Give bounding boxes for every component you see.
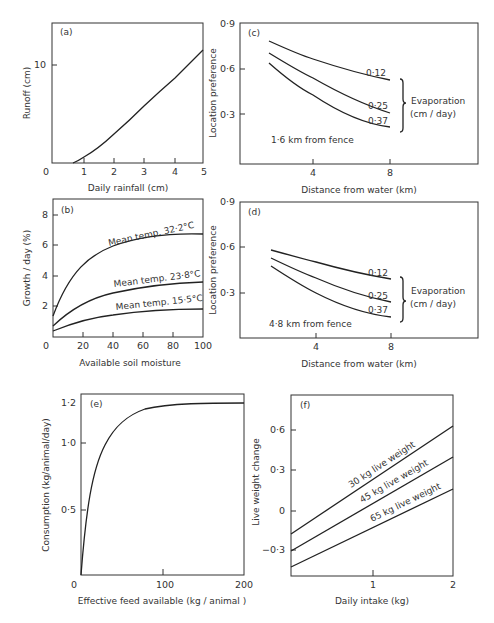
panel-f: (f) 0·6 0·3 0 −0·3 1 2 Daily intake (kg)… xyxy=(251,395,456,606)
panel-a-label: (a) xyxy=(60,27,73,37)
panel-b: (b) 8 6 4 2 0 20 40 60 80 100 Available … xyxy=(22,199,212,368)
x-axis-label: Distance from water (km) xyxy=(301,359,417,369)
series-label: 0·25 xyxy=(368,291,388,301)
brace-icon xyxy=(400,277,406,322)
x-tick-label: 100 xyxy=(194,340,212,351)
y-tick-label: 8 xyxy=(42,209,48,220)
y-tick-label: 2 xyxy=(42,300,48,311)
x-tick-label: 100 xyxy=(156,579,174,590)
x-tick-label: 200 xyxy=(235,579,253,590)
y-tick-label: 1·0 xyxy=(61,437,76,448)
x-tick-label: 0 xyxy=(71,579,77,590)
series-label: 0·12 xyxy=(368,268,388,278)
panel-c: (c) 0·9 0·6 0·3 4 8 Distance from water … xyxy=(208,18,478,195)
series-label: 0·12 xyxy=(366,68,386,78)
x-axis-label: Available soil moisture xyxy=(79,358,181,368)
legend-title-line1: Evaporation xyxy=(411,286,465,296)
x-tick-label: 3 xyxy=(141,166,147,177)
x-tick-label: 4 xyxy=(310,167,316,178)
series-label: 0·37 xyxy=(368,305,388,315)
series-label: 0·37 xyxy=(368,116,388,126)
y-tick-label: −0·3 xyxy=(262,544,285,555)
y-tick-label: 0·6 xyxy=(220,63,235,74)
y-tick-label: 10 xyxy=(34,59,46,70)
y-tick-label: 0·5 xyxy=(61,504,76,515)
y-axis-label: Location preference xyxy=(208,225,218,315)
figure: (a) 10 0 1 2 3 4 5 Daily rainfall (cm) R… xyxy=(0,0,494,623)
x-axis-label: Daily intake (kg) xyxy=(335,596,409,606)
x-tick-label: 60 xyxy=(137,340,149,351)
legend-title-line2: (cm / day) xyxy=(410,109,456,119)
x-tick-label: 4 xyxy=(172,166,178,177)
panel-a: (a) 10 0 1 2 3 4 5 Daily rainfall (cm) R… xyxy=(22,23,207,193)
series-label: 0·25 xyxy=(368,101,388,111)
y-tick-label: 6 xyxy=(42,239,48,250)
y-axis-label: Consumption (kg/animal/day) xyxy=(41,418,51,552)
y-tick-label: 4 xyxy=(42,270,48,281)
consumption-curve xyxy=(81,403,244,575)
x-axis-label: Distance from water (km) xyxy=(301,185,417,195)
panel-e-label: (e) xyxy=(90,399,103,409)
x-tick-label: 8 xyxy=(388,341,394,352)
x-tick-label: 0 xyxy=(43,166,49,177)
y-tick-label: 0 xyxy=(279,505,285,516)
x-tick-label: 20 xyxy=(77,340,89,351)
legend-title-line2: (cm / day) xyxy=(410,299,456,309)
panel-d: (d) 0·9 0·6 0·3 4 8 Distance from water … xyxy=(208,196,478,369)
y-tick-label: 1·2 xyxy=(61,397,76,408)
x-tick-label: 1 xyxy=(81,166,87,177)
y-axis-label: Runoff (cm) xyxy=(22,67,32,120)
y-tick-label: 0·6 xyxy=(270,424,285,435)
y-tick-label: 0·6 xyxy=(220,241,235,252)
legend-title-line1: Evaporation xyxy=(411,96,465,106)
x-tick-label: 1 xyxy=(370,579,376,590)
panel-e: (e) 1·2 1·0 0·5 0 100 200 Effective feed… xyxy=(41,394,253,606)
panel-e-frame xyxy=(81,394,244,575)
x-tick-label: 2 xyxy=(111,166,117,177)
x-tick-label: 2 xyxy=(450,579,456,590)
distance-annotation: 1·6 km from fence xyxy=(271,135,354,145)
y-tick-label: 0·3 xyxy=(220,109,235,120)
x-tick-label: 40 xyxy=(107,340,119,351)
x-axis-label: Effective feed available (kg / animal ) xyxy=(78,596,247,606)
panel-c-label: (c) xyxy=(248,28,260,38)
x-tick-label: 0 xyxy=(43,340,49,351)
x-tick-label: 4 xyxy=(313,341,319,352)
x-tick-label: 5 xyxy=(201,166,207,177)
panel-f-label: (f) xyxy=(300,400,310,410)
weight-65kg-line xyxy=(291,489,453,567)
x-tick-label: 8 xyxy=(387,167,393,178)
y-axis-label: Growth / day (%) xyxy=(22,230,32,306)
y-axis-label: Location preference xyxy=(208,48,218,138)
panel-a-frame xyxy=(52,23,203,163)
y-axis-label: Live weight change xyxy=(251,438,261,526)
y-tick-label: 0·3 xyxy=(220,287,235,298)
brace-icon xyxy=(400,79,406,132)
y-tick-label: 0·3 xyxy=(270,464,285,475)
distance-annotation: 4·8 km from fence xyxy=(269,319,352,329)
panel-d-frame xyxy=(240,202,478,338)
runoff-curve xyxy=(73,50,203,163)
temp-155-curve xyxy=(53,309,203,331)
y-tick-label: 0·9 xyxy=(220,18,235,29)
panel-d-label: (d) xyxy=(248,207,261,217)
panel-b-frame xyxy=(53,199,203,337)
x-tick-label: 80 xyxy=(167,340,179,351)
x-axis-label: Daily rainfall (cm) xyxy=(88,183,168,193)
panel-b-label: (b) xyxy=(61,205,74,215)
y-tick-label: 0·9 xyxy=(220,196,235,207)
